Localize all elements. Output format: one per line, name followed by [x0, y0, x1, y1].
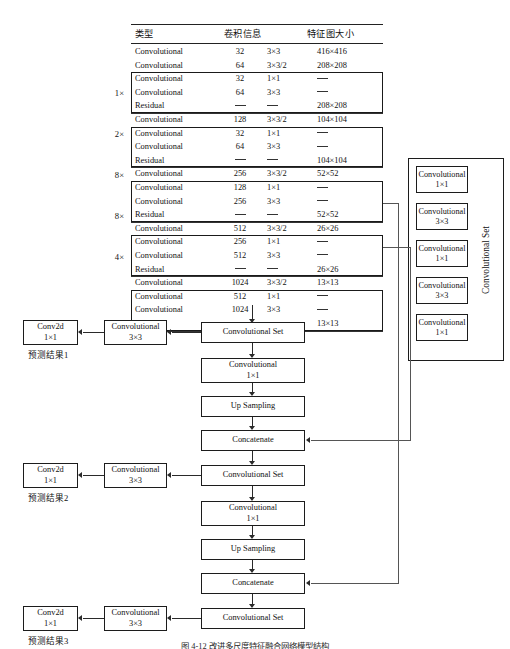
table-cell-kernel [267, 154, 313, 168]
table-cell-filters [223, 263, 257, 277]
conv2d-branch3: Conv2d 1×1 [23, 606, 78, 631]
conv3x3-branch3-name: Convolutional [112, 608, 160, 618]
conv-set-block-2-kernel: 3×3 [436, 217, 449, 227]
conv-set-branch2: Convolutional Set [201, 465, 305, 486]
table-cell-output: 13×13 [317, 317, 379, 331]
conv3x3-branch1: Convolutional 3×3 [104, 320, 167, 345]
prediction-label-2: 预测结果2 [28, 491, 68, 503]
conv3x3-branch3: Convolutional 3×3 [104, 606, 167, 631]
table-cell-output: 26×26 [317, 222, 379, 236]
table-cell-kernel: 3×3 [267, 195, 313, 209]
table-cell-output [317, 290, 379, 304]
link-conv3x3-to-conv2d-2 [83, 475, 104, 476]
table-row: Convolutional1281×1 [131, 181, 383, 195]
figure-canvas: 类型 卷积信息 特征图大小 Convolutional323×3416×416C… [0, 0, 510, 649]
conv1x1-branch2-kernel: 1×1 [229, 514, 277, 524]
table-row: Convolutional5121×1 [131, 290, 383, 304]
link-convset1-to-conv3x3 [172, 332, 201, 333]
table-separator-rule [131, 290, 383, 291]
table-cell-filters: 256 [223, 167, 257, 181]
table-cell-filters: 128 [223, 181, 257, 195]
arrow-conv3x3-to-conv2d-3 [78, 615, 82, 621]
table-cell-type: Residual [135, 154, 164, 168]
conv-set-block-3-kernel: 1×1 [436, 254, 449, 264]
table-cell-filters: 64 [223, 140, 257, 154]
table-cell-kernel: 3×3/2 [267, 276, 313, 290]
table-cell-kernel: 1×1 [267, 235, 313, 249]
arrow-convset3-to-conv3x3 [167, 615, 171, 621]
prediction-label-1: 预测结果1 [28, 348, 68, 360]
table-row: Convolutional643×3 [131, 86, 383, 100]
table-cell-kernel: 3×3 [267, 303, 313, 317]
conv-set-block-2-name: Convolutional [419, 207, 466, 217]
table-header-conv: 卷积信息 [224, 26, 262, 40]
table-cell-output [317, 181, 379, 195]
table-separator-rule [131, 181, 383, 182]
conv-set-panel-label: Convolutional Set [473, 166, 499, 355]
conv2d-branch3-kernel: 1×1 [37, 619, 64, 629]
arrow-conv3x3-to-conv2d-1 [78, 329, 82, 335]
conv-set-block-1: Convolutional 1×1 [416, 166, 468, 193]
conv-set-block-1-kernel: 1×1 [436, 180, 449, 190]
table-body: Convolutional323×3416×416Convolutional64… [131, 45, 383, 330]
table-cell-output: 52×52 [317, 167, 379, 181]
table-header-size: 特征图大小 [307, 26, 354, 40]
arrow-convset2-to-conv3x3 [167, 472, 171, 478]
conv-set-branch2-label: Convolutional Set [223, 470, 284, 480]
table-row: Residual104×104 [131, 154, 383, 168]
conv-set-block-3: Convolutional 1×1 [416, 240, 468, 267]
conv1x1-branch2-name: Convolutional [229, 503, 277, 513]
table-row: Convolutional10243×3/213×13 [131, 276, 383, 290]
table-cell-kernel: 3×3/2 [267, 167, 313, 181]
table-cell-type: Convolutional [135, 303, 183, 317]
table-cell-filters [223, 208, 257, 222]
table-row: Convolutional1283×3/2104×104 [131, 113, 383, 127]
table-cell-filters: 512 [223, 222, 257, 236]
table-cell-output [317, 235, 379, 249]
link-conv3x3-to-conv2d-1 [83, 332, 104, 333]
concatenate-branch1: Concatenate [201, 430, 305, 451]
table-cell-type: Convolutional [135, 181, 183, 195]
table-cell-output: 416×416 [317, 45, 379, 59]
conv2d-branch1-name: Conv2d [37, 322, 64, 332]
conv-set-branch3: Convolutional Set [201, 608, 305, 629]
table-header-rule [131, 43, 383, 44]
conv1x1-branch1-name: Convolutional [229, 360, 277, 370]
conv2d-branch2-kernel: 1×1 [37, 476, 64, 486]
convolutional-set-panel: Convolutional 1×1 Convolutional 3×3 Conv… [408, 158, 504, 361]
table-cell-output: 13×13 [317, 276, 379, 290]
conv-set-block-5: Convolutional 1×1 [416, 314, 468, 341]
conv3x3-branch1-kernel: 3×3 [112, 333, 160, 343]
conv-set-branch1-label: Convolutional Set [223, 327, 284, 337]
table-cell-type: Convolutional [135, 59, 183, 73]
table-cell-filters: 256 [223, 235, 257, 249]
table-cell-kernel: 1×1 [267, 290, 313, 304]
table-row: Residual208×208 [131, 99, 383, 113]
table-cell-filters: 512 [223, 290, 257, 304]
table-cell-kernel: 3×3/2 [267, 113, 313, 127]
table-cell-filters: 128 [223, 113, 257, 127]
table-separator-rule [131, 72, 383, 73]
skip2-segment-h-top [383, 203, 399, 204]
table-cell-type: Convolutional [135, 167, 183, 181]
upsampling-branch1-label: Up Sampling [231, 401, 275, 411]
table-cell-type: Residual [135, 263, 164, 277]
table-cell-kernel: 3×3 [267, 249, 313, 263]
table-cell-kernel [267, 99, 313, 113]
table-cell-type: Convolutional [135, 113, 183, 127]
skip2-arrow [306, 580, 310, 586]
table-cell-kernel [267, 263, 313, 277]
concatenate-branch2-label: Concatenate [232, 578, 273, 588]
table-cell-type: Convolutional [135, 140, 183, 154]
conv1x1-branch1-kernel: 1×1 [229, 371, 277, 381]
table-cell-kernel: 1×1 [267, 181, 313, 195]
table-cell-output: 208×208 [317, 99, 379, 113]
table-cell-kernel: 3×3/2 [267, 222, 313, 236]
backbone-table: 类型 卷积信息 特征图大小 Convolutional323×3416×416C… [131, 24, 383, 45]
skip2-segment-v [398, 203, 399, 584]
table-cell-kernel: 3×3 [267, 86, 313, 100]
conv2d-branch2-name: Conv2d [37, 465, 64, 475]
table-cell-output: 52×52 [317, 208, 379, 222]
table-row: Convolutional2563×3 [131, 195, 383, 209]
table-row: Convolutional2563×3/252×52 [131, 167, 383, 181]
